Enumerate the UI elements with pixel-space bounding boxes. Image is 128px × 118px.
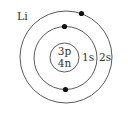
- electron-1s-1: [62, 24, 67, 29]
- bohr-model-diagram: Li 3p 4n 1s 2s: [0, 0, 128, 118]
- nucleus-protons-label: 3p: [58, 45, 72, 57]
- shell-2s-label: 2s: [99, 51, 111, 63]
- nucleus-neutrons-label: 4n: [58, 57, 72, 69]
- shell-1s-label: 1s: [82, 51, 94, 63]
- element-symbol-label: Li: [17, 10, 28, 23]
- electron-1s-2: [63, 87, 68, 92]
- electron-2s-1: [79, 11, 84, 16]
